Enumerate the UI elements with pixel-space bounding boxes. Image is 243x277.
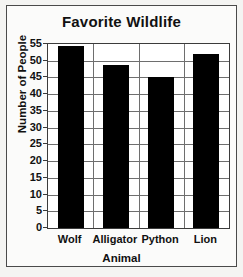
y-axis-tick-label: 25 <box>0 137 42 149</box>
bar <box>103 65 129 228</box>
y-axis-tick-mark <box>43 110 47 111</box>
y-axis-tick-mark <box>43 76 47 77</box>
bars <box>48 44 229 228</box>
y-axis-tick-label: 45 <box>0 70 42 82</box>
y-axis-tick-mark <box>43 127 47 128</box>
y-axis-title: Number of People <box>16 14 28 154</box>
y-axis-tick-label: 20 <box>0 154 42 166</box>
x-axis-title: Animal <box>0 252 243 264</box>
y-axis-tick-label: 30 <box>0 121 42 133</box>
x-axis-tick-label: Python <box>138 233 183 245</box>
y-axis-tick-mark <box>43 227 47 228</box>
y-axis-tick-label: 55 <box>0 37 42 49</box>
plot-area <box>47 43 230 229</box>
y-axis-tick-label: 0 <box>0 221 42 233</box>
y-axis-tick-mark <box>43 93 47 94</box>
y-axis-tick-mark <box>43 210 47 211</box>
y-axis-tick-mark <box>43 194 47 195</box>
y-axis-tick-mark <box>43 177 47 178</box>
y-axis-tick-mark <box>43 43 47 44</box>
x-axis-tick-label: Lion <box>183 233 228 245</box>
bar <box>58 46 84 228</box>
y-axis-tick-label: 5 <box>0 204 42 216</box>
bar <box>193 54 219 228</box>
x-axis-tick-label: Alligator <box>92 233 137 245</box>
y-axis-tick-mark <box>43 160 47 161</box>
chart-title: Favorite Wildlife <box>0 13 243 30</box>
y-axis-tick-label: 10 <box>0 188 42 200</box>
y-axis-tick-label: 35 <box>0 104 42 116</box>
chart-figure: Favorite Wildlife Number of People 05101… <box>0 0 243 277</box>
bar <box>148 77 174 228</box>
y-axis-tick-label: 50 <box>0 54 42 66</box>
y-axis-tick-mark <box>43 143 47 144</box>
y-axis-tick-label: 15 <box>0 171 42 183</box>
x-axis-tick-label: Wolf <box>47 233 92 245</box>
y-axis-tick-mark <box>43 60 47 61</box>
y-axis-tick-label: 40 <box>0 87 42 99</box>
